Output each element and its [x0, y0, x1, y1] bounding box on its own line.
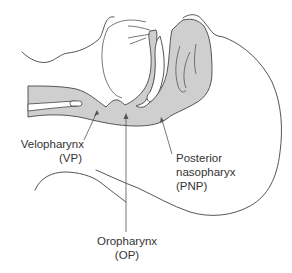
catheter-tip [70, 101, 82, 106]
label-pnp-abbr: (PNP) [176, 179, 235, 193]
nasal-line [128, 34, 150, 38]
label-posterior-nasopharynx: Posterior nasopharyx (PNP) [176, 151, 235, 193]
face-profile-outline [22, 17, 114, 63]
label-velopharynx: Velopharynx (VP) [12, 137, 84, 165]
label-vp-name: Velopharynx [12, 137, 84, 151]
tongue-top [108, 20, 146, 28]
tongue-outline [102, 28, 122, 98]
nasal-line [130, 38, 146, 44]
label-pnp-line2: nasopharyx [176, 165, 235, 179]
pnp-pointer-line [162, 120, 172, 154]
chin-outline [35, 172, 126, 202]
label-pnp-line1: Posterior [176, 151, 235, 165]
label-op-name: Oropharynx [92, 234, 162, 248]
label-oropharynx: Oropharynx (OP) [92, 234, 162, 262]
label-vp-abbr: (VP) [12, 151, 84, 165]
nasal-line [128, 26, 150, 30]
label-op-abbr: (OP) [92, 248, 162, 262]
